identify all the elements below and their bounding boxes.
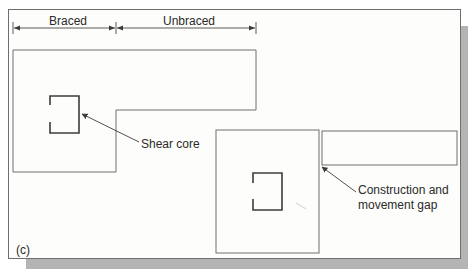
faint-mark (296, 203, 306, 209)
braced-label: Braced (49, 15, 87, 28)
unbraced-label: Unbraced (163, 15, 215, 28)
shear-core-leader-arrow (82, 114, 139, 142)
floor-plan-drawing (0, 0, 474, 272)
gap-label-line1: Construction and (358, 184, 449, 197)
shear-core-left (50, 96, 79, 133)
right-square-building-outline (216, 130, 319, 253)
right-wing-outline (322, 131, 457, 165)
shear-core-label: Shear core (141, 138, 200, 151)
gap-label-line2: movement gap (358, 199, 437, 212)
l-shaped-building-outline (13, 50, 256, 172)
gap-leader-arrow (322, 167, 356, 192)
shear-core-right (253, 173, 282, 210)
panel-label: (c) (16, 244, 30, 257)
